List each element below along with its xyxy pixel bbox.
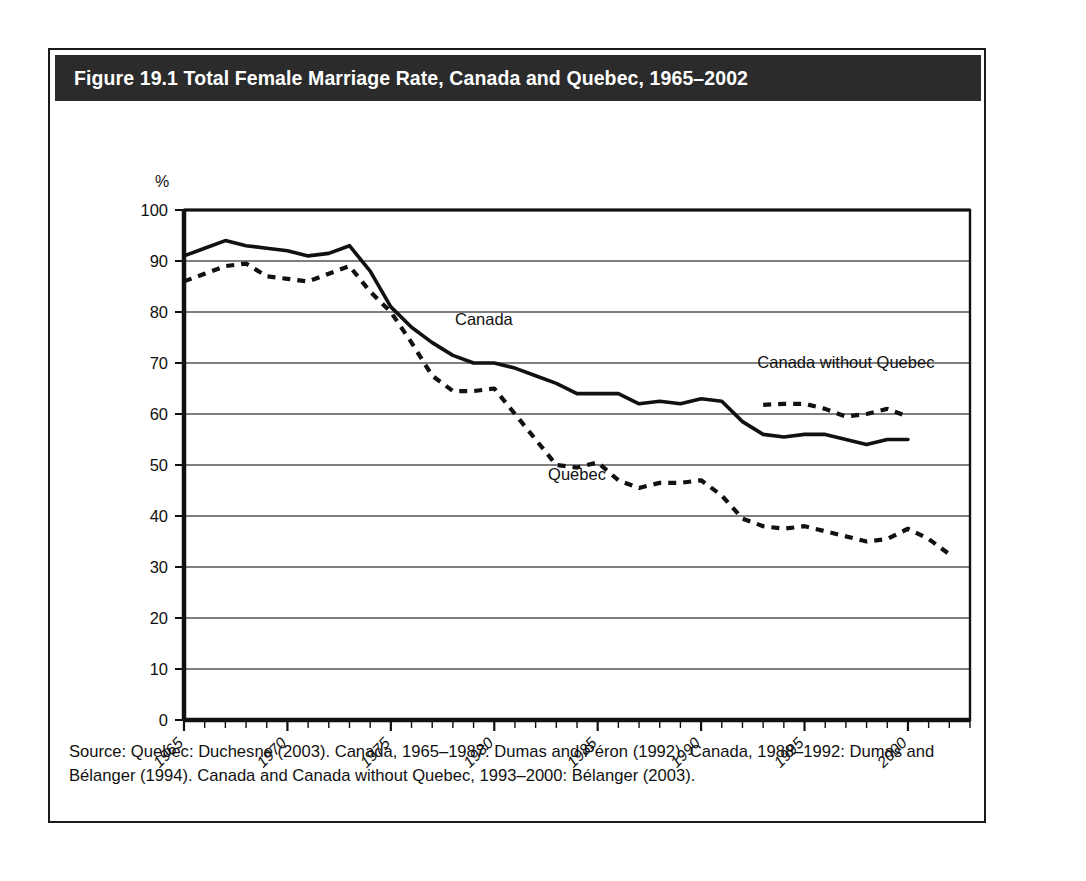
y-tick-label: 40	[150, 507, 168, 525]
y-tick-label: 90	[150, 252, 168, 270]
y-tick-label: 60	[150, 405, 168, 423]
figure-frame: Figure 19.1 Total Female Marriage Rate, …	[48, 48, 986, 823]
y-tick-labels: 0102030405060708090100	[140, 201, 168, 729]
y-tick-label: 70	[150, 354, 168, 372]
series-line-quebec	[184, 264, 949, 555]
figure-page: Figure 19.1 Total Female Marriage Rate, …	[0, 0, 1086, 881]
source-note: Source: Quebec: Duchesne (2003). Canada,…	[69, 740, 966, 787]
y-axis-unit-label: %	[155, 173, 169, 190]
y-tick-label: 20	[150, 609, 168, 627]
y-tick-label: 10	[150, 660, 168, 678]
figure-title-bar: Figure 19.1 Total Female Marriage Rate, …	[55, 55, 981, 101]
annotation-label: Canada without Quebec	[757, 353, 934, 371]
y-tick-label: 100	[140, 201, 168, 219]
annotation-label: Canada	[455, 310, 514, 328]
y-tick-label: 80	[150, 303, 168, 321]
y-tick-label: 50	[150, 456, 168, 474]
y-tick-label: 0	[159, 711, 168, 729]
line-chart: 0102030405060708090100 19651970197519801…	[50, 105, 984, 770]
y-tick-label: 30	[150, 558, 168, 576]
figure-title: Figure 19.1 Total Female Marriage Rate, …	[55, 67, 748, 90]
series-annotations: CanadaQuebecCanada without Quebec	[455, 310, 934, 484]
series-layer	[184, 241, 949, 555]
chart-area: 0102030405060708090100 19651970197519801…	[50, 105, 984, 770]
source-block: Source: Quebec: Duchesne (2003). Canada,…	[50, 740, 984, 787]
annotation-label: Quebec	[548, 465, 606, 483]
